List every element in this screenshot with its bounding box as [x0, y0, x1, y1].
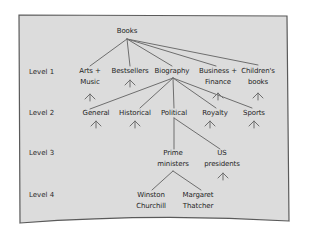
level-label-4: Level 4	[29, 191, 54, 199]
node-royalty: Royalty	[202, 108, 227, 119]
level-label-1: Level 1	[29, 68, 54, 76]
node-childrens-books: Children's books	[241, 66, 275, 88]
node-line: ministers	[157, 159, 188, 170]
node-line: Arts +	[79, 66, 101, 77]
node-sports: Sports	[243, 108, 265, 119]
node-business-finance: Business + Finance	[199, 66, 237, 88]
node-line: Finance	[199, 77, 237, 88]
node-bestsellers: Bestsellers	[111, 66, 148, 77]
node-line: books	[241, 77, 275, 88]
node-arts-music: Arts + Music	[79, 66, 101, 88]
node-line: Thatcher	[183, 201, 214, 212]
node-line: Prime	[157, 148, 188, 159]
node-line: Music	[79, 77, 101, 88]
node-political: Political	[161, 108, 187, 119]
level-label-3: Level 3	[29, 149, 54, 157]
node-books: Books	[117, 26, 138, 37]
node-line: Business +	[199, 66, 237, 77]
node-prime-ministers: Prime ministers	[157, 148, 188, 170]
level-label-2: Level 2	[29, 109, 54, 117]
node-line: Biography	[155, 66, 190, 77]
node-general: General	[83, 108, 110, 119]
node-biography: Biography	[155, 66, 190, 77]
node-line: Winston	[136, 190, 166, 201]
node-line: US	[204, 148, 240, 159]
node-winston-churchill: Winston Churchill	[136, 190, 166, 212]
node-line: Children's	[241, 66, 275, 77]
node-margaret-thatcher: Margaret Thatcher	[183, 190, 214, 212]
node-line: Margaret	[183, 190, 214, 201]
node-historical: Historical	[119, 108, 151, 119]
node-line: Bestsellers	[111, 66, 148, 77]
node-line: Churchill	[136, 201, 166, 212]
node-line: presidents	[204, 159, 240, 170]
node-us-presidents: US presidents	[204, 148, 240, 170]
